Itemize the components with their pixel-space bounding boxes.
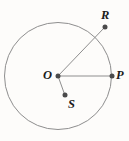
point-label-P: P [116,69,124,82]
segment-O-to-S [58,76,65,95]
point-P [110,74,115,79]
point-S [63,93,68,98]
point-label-O: O [43,69,52,82]
point-label-S: S [68,98,75,111]
point-O [56,74,61,79]
point-label-R: R [101,9,109,22]
figure-canvas [0,0,129,141]
segment-O-to-R [58,28,104,76]
geometry-figure: O P R S [0,0,129,141]
point-R [103,25,108,30]
